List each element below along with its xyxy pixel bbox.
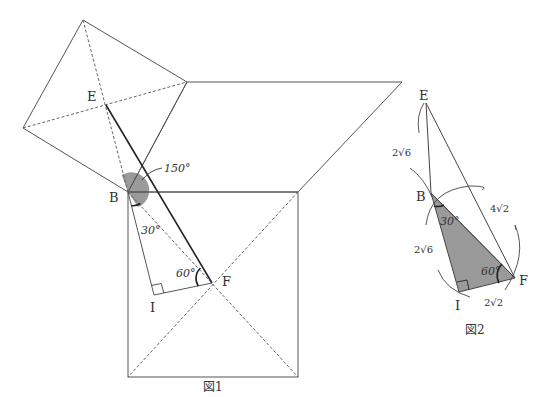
upper-square-diagonal-1 (83, 20, 128, 192)
figure-2-caption: 図2 (465, 323, 485, 337)
compass-arc-E (418, 103, 424, 133)
label-I-2: I (455, 298, 460, 313)
segment-EF (106, 105, 212, 283)
label-I: I (150, 300, 155, 315)
label-F-2: F (519, 273, 528, 288)
length-label-BI: 2√6 (414, 244, 433, 255)
label-B-2: B (416, 189, 426, 204)
label-F: F (222, 274, 231, 289)
figure-1-caption: 図1 (203, 380, 223, 394)
label-E: E (87, 89, 97, 104)
segment-BI (128, 192, 154, 295)
angle-label-30: 30° (141, 224, 161, 237)
figure-2: E B F I 30° 60° 2√6 2√6 4√2 2√2 図2 (392, 88, 528, 337)
length-label-EB: 2√6 (392, 147, 411, 158)
angle-label-60: 60° (176, 267, 196, 280)
segment-EB (426, 103, 431, 193)
angle-label-30-2: 30° (440, 215, 460, 228)
upper-square-diagonal-2 (23, 82, 187, 128)
compass-arc-F-tick (515, 225, 516, 230)
geometry-diagram: E B F I 150° 30° 60° 図1 E B F I (0, 0, 548, 397)
parallelogram (128, 82, 402, 192)
angle-label-60-2: 60° (481, 265, 501, 278)
label-B: B (109, 190, 119, 205)
length-label-IF: 2√2 (484, 297, 503, 308)
angle-label-150: 150° (164, 162, 191, 175)
length-label-BF: 4√2 (490, 203, 509, 214)
label-E-2: E (419, 88, 429, 103)
figure-1: E B F I 150° 30° 60° 図1 (23, 20, 402, 394)
upper-left-square (23, 20, 187, 192)
